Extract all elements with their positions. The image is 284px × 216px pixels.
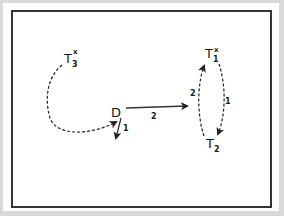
node-t3-sup: x — [73, 48, 78, 56]
node-d-base: D — [111, 105, 121, 120]
node-t3-sub: 3 — [72, 60, 78, 69]
node-t3-base: T — [63, 51, 72, 66]
node-t1-sup: x — [214, 46, 219, 54]
edge-d-down — [116, 118, 121, 138]
edge-t1-to-t2-label: 1 — [225, 97, 231, 106]
diagram-canvas: T x 3 T x 1 T 2 D 1 2 1 2 — [0, 0, 284, 216]
edge-d-down-label: 1 — [123, 124, 129, 133]
node-d: D — [111, 105, 121, 120]
edge-t2-to-t1 — [199, 66, 204, 136]
edge-t3-to-d — [47, 65, 116, 132]
edge-d-to-t1t2 — [126, 106, 187, 108]
node-t2: T 2 — [205, 136, 220, 154]
edge-t1-to-t2 — [218, 64, 224, 134]
node-t2-base: T — [205, 136, 214, 151]
node-t1-sub: 1 — [213, 55, 219, 64]
edge-d-to-t1t2-label: 2 — [151, 112, 157, 121]
node-t3: T x 3 — [63, 48, 78, 69]
node-t2-sub: 2 — [214, 145, 220, 154]
node-t1-base: T — [204, 46, 213, 61]
edge-t2-to-t1-label: 2 — [190, 89, 196, 98]
node-t1: T x 1 — [204, 46, 219, 64]
